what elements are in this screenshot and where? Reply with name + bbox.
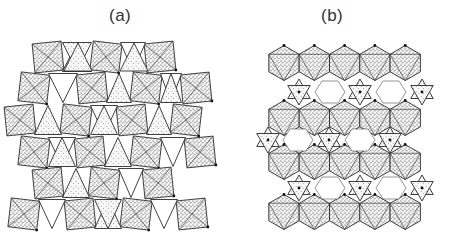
octahedron [269,195,299,230]
channel-void [376,81,406,103]
crystal-structure-figure [0,0,452,241]
tetrahedron [161,138,186,167]
tetrahedron [49,74,78,103]
octahedron [330,46,360,81]
octahedron [330,195,360,230]
tetrahedron [147,106,172,135]
octahedron [360,195,390,230]
tetrahedron [39,200,66,229]
octahedron [299,195,329,230]
tetrahedron [63,169,90,198]
octahedron [299,46,329,81]
octahedron [390,101,420,136]
tetrahedron [151,200,178,229]
octahedron [269,46,299,81]
tetrahedron [107,74,132,103]
octahedron [390,46,420,81]
octahedron [390,195,420,230]
tetrahedron [105,138,132,167]
channel-void [315,81,345,103]
channel-void [376,177,406,199]
panel-b-structure [257,44,434,229]
tetrahedron [119,169,144,198]
tetrahedron [35,106,62,135]
channel-void [315,177,345,199]
octahedron [390,145,420,180]
octahedron [360,46,390,81]
panel-a-structure [4,41,217,232]
